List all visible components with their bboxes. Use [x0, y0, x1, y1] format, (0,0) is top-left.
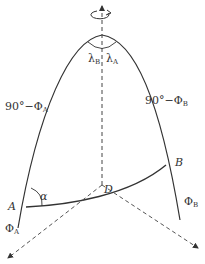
label-colatitude-b: 90°−ΦB [145, 94, 188, 108]
label-lambda-a: λA [106, 52, 119, 66]
label-colatitude-a: 90°−ΦA [5, 100, 49, 114]
label-d: D [103, 183, 113, 196]
label-lambda-b: λB [88, 52, 100, 66]
radius-to-a [8, 185, 102, 258]
rotation-arrow-icon [91, 10, 111, 19]
label-point-a: A [7, 200, 16, 213]
label-alpha: α [40, 190, 48, 203]
label-point-b: B [174, 156, 183, 169]
label-latitude-b: ΦB [184, 195, 198, 209]
label-latitude-a: ΦA [5, 222, 20, 236]
spherical-triangle-diagram: λB λA 90°−ΦA 90°−ΦB α D A B ΦA ΦB [0, 0, 205, 264]
